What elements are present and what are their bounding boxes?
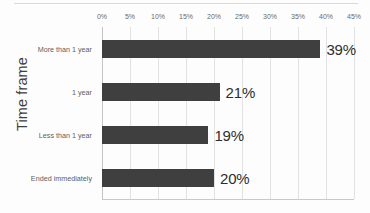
x-tick-label: 10% [151, 13, 165, 20]
y-tick-label: Ended immediately [31, 173, 92, 182]
x-tick-label: 15% [179, 13, 193, 20]
bar-data-label: 19% [214, 126, 243, 143]
x-axis-line [102, 199, 354, 200]
bar-data-label: 39% [326, 40, 355, 57]
x-tick-label: 30% [263, 13, 277, 20]
y-tick-label: Less than 1 year [39, 130, 92, 139]
bar-data-label: 20% [220, 169, 249, 186]
x-tick-label: 40% [319, 13, 333, 20]
y-axis-tick-labels: More than 1 year1 yearLess than 1 yearEn… [0, 27, 98, 199]
x-axis-tick-labels: 0%5%10%15%20%25%30%35%40%45% [102, 13, 354, 25]
plot-area: 39%21%19%20% [102, 27, 354, 199]
x-tick-label: 20% [207, 13, 221, 20]
x-tick-label: 5% [125, 13, 135, 20]
chart-top-border [14, 3, 358, 4]
bar-data-label: 21% [226, 83, 255, 100]
x-tick-label: 45% [347, 13, 361, 20]
y-tick-label: 1 year [72, 87, 92, 96]
x-tick-label: 25% [235, 13, 249, 20]
bar[interactable] [102, 40, 320, 58]
x-tick-label: 0% [97, 13, 107, 20]
x-tick-label: 35% [291, 13, 305, 20]
y-tick-label: More than 1 year [38, 44, 92, 53]
bar[interactable] [102, 83, 220, 101]
bar-chart: Time frame 0%5%10%15%20%25%30%35%40%45% … [0, 0, 370, 213]
bar[interactable] [102, 169, 214, 187]
bar[interactable] [102, 126, 208, 144]
